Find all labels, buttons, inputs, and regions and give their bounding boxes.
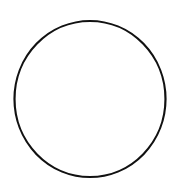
diagram-canvas	[0, 0, 173, 182]
circle-outline	[15, 21, 166, 177]
